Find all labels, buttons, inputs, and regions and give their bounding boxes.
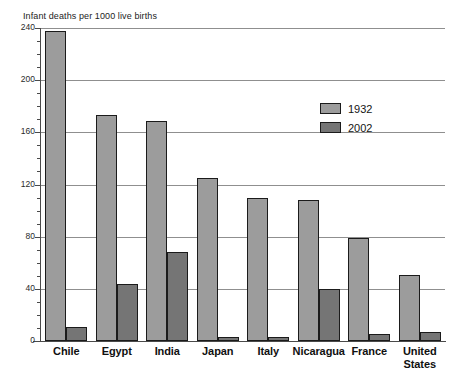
bar-chile-1932	[45, 31, 66, 341]
y-tick-120	[35, 185, 41, 186]
gridline-200	[41, 80, 445, 81]
bar-united-states-1932	[399, 275, 420, 342]
bar-nicaragua-2002	[319, 289, 340, 341]
y-tick-label-160: 160	[21, 126, 35, 136]
y-tick-label-wrap-240: 240	[4, 28, 35, 29]
bar-italy-2002	[268, 337, 289, 341]
bar-chile-2002	[66, 327, 87, 341]
bar-india-1932	[146, 121, 167, 341]
bar-france-1932	[348, 238, 369, 341]
bar-chart: Infant deaths per 1000 live births 04080…	[0, 0, 469, 381]
y-minor-tick-100	[37, 211, 41, 212]
bar-japan-2002	[218, 337, 239, 341]
bar-france-2002	[369, 334, 390, 341]
chart-title: Infant deaths per 1000 live births	[23, 11, 157, 21]
chart-legend: 1932 2002	[320, 101, 372, 139]
y-tick-80	[35, 237, 41, 238]
y-tick-40	[35, 289, 41, 290]
y-minor-tick-110	[37, 198, 41, 199]
y-minor-tick-50	[37, 276, 41, 277]
y-minor-tick-90	[37, 224, 41, 225]
bar-nicaragua-1932	[298, 200, 319, 341]
bar-egypt-2002	[117, 284, 138, 341]
legend-label-2002: 2002	[348, 122, 372, 134]
y-minor-tick-230	[37, 41, 41, 42]
x-axis-line	[33, 341, 446, 342]
legend-item-2002: 2002	[320, 120, 372, 135]
bar-japan-1932	[197, 178, 218, 341]
y-minor-tick-60	[37, 263, 41, 264]
y-tick-label-wrap-40: 40	[4, 289, 35, 290]
y-tick-200	[35, 80, 41, 81]
y-minor-tick-150	[37, 145, 41, 146]
y-tick-label-wrap-80: 80	[4, 237, 35, 238]
bar-egypt-1932	[96, 115, 117, 341]
y-tick-label-40: 40	[26, 283, 35, 293]
y-minor-tick-140	[37, 158, 41, 159]
y-tick-label-200: 200	[21, 74, 35, 84]
y-minor-tick-20	[37, 315, 41, 316]
legend-swatch-1932-icon	[320, 103, 341, 114]
y-minor-tick-10	[37, 328, 41, 329]
bar-italy-1932	[247, 198, 268, 341]
y-tick-label-wrap-160: 160	[4, 132, 35, 133]
gridline-240	[41, 28, 445, 29]
y-tick-label-80: 80	[26, 231, 35, 241]
y-tick-label-wrap-200: 200	[4, 80, 35, 81]
y-tick-label-0: 0	[30, 335, 35, 345]
y-tick-240	[35, 28, 41, 29]
y-minor-tick-220	[37, 54, 41, 55]
y-minor-tick-190	[37, 93, 41, 94]
y-minor-tick-180	[37, 106, 41, 107]
category-label-united-states: United States	[387, 345, 454, 371]
legend-item-1932: 1932	[320, 101, 372, 116]
y-minor-tick-170	[37, 119, 41, 120]
legend-swatch-2002-icon	[320, 122, 341, 133]
plot-area: 04080120160200240	[41, 28, 445, 341]
bar-united-states-2002	[420, 332, 441, 341]
y-tick-0	[35, 341, 41, 342]
y-tick-160	[35, 132, 41, 133]
y-minor-tick-70	[37, 250, 41, 251]
legend-label-1932: 1932	[348, 103, 372, 115]
y-minor-tick-210	[37, 67, 41, 68]
y-minor-tick-130	[37, 171, 41, 172]
y-tick-label-wrap-0: 0	[4, 341, 35, 342]
y-minor-tick-30	[37, 302, 41, 303]
bar-india-2002	[167, 252, 188, 341]
y-tick-label-240: 240	[21, 22, 35, 32]
y-tick-label-120: 120	[21, 179, 35, 189]
y-tick-label-wrap-120: 120	[4, 185, 35, 186]
